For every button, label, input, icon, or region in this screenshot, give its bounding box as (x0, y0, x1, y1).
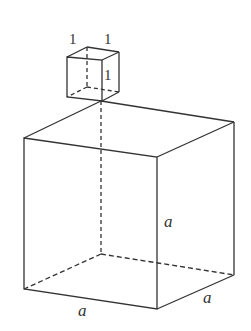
large-cube-label-depth: a (203, 288, 212, 307)
large-cube-label-front: a (78, 301, 87, 320)
large-cube (24, 101, 234, 309)
cube-diagram: 1 1 1 a a a (0, 0, 251, 331)
small-cube-label-height: 1 (104, 67, 112, 83)
large-cube-label-height: a (164, 212, 173, 231)
small-cube-label-right: 1 (104, 31, 112, 47)
small-cube-label-left: 1 (69, 31, 77, 47)
figure-canvas: 1 1 1 a a a (0, 0, 251, 331)
